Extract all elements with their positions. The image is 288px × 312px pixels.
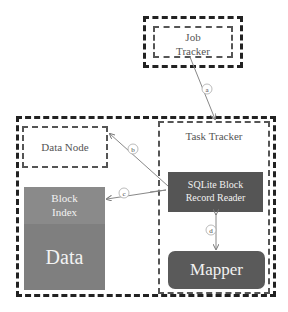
edge-c: c xyxy=(107,188,166,199)
edge-a: a xyxy=(190,57,215,119)
svg-text:c: c xyxy=(122,190,125,198)
edges-layer: a b c d xyxy=(0,0,288,312)
edge-b: b xyxy=(110,134,168,186)
svg-text:d: d xyxy=(209,227,213,235)
edge-d: d xyxy=(206,214,216,249)
svg-text:b: b xyxy=(131,146,135,154)
